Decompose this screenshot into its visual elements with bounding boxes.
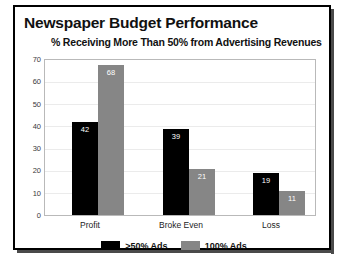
y-tick-20: 20 xyxy=(33,166,41,175)
bar-value-profit-100: 68 xyxy=(98,68,124,77)
chart-frame: Newspaper Budget Performance % Receiving… xyxy=(13,5,331,250)
bar-value-brokeeven-gt50: 39 xyxy=(163,132,189,141)
y-tick-0: 0 xyxy=(37,211,41,220)
bar-loss-100: 11 xyxy=(279,191,305,215)
bar-brokeeven-gt50: 39 xyxy=(163,129,189,215)
bar-value-loss-gt50: 19 xyxy=(253,176,279,185)
category-label-broke-even: Broke Even xyxy=(148,220,214,230)
category-label-loss: Loss xyxy=(238,220,304,230)
bar-loss-gt50: 19 xyxy=(253,173,279,215)
bar-value-profit-gt50: 42 xyxy=(72,125,98,134)
chart-title: Newspaper Budget Performance xyxy=(24,14,258,32)
y-tick-10: 10 xyxy=(33,188,41,197)
category-label-profit: Profit xyxy=(57,220,123,230)
y-axis-tick-labels: 70 60 50 40 30 20 10 0 xyxy=(25,59,41,215)
gridline-50 xyxy=(45,104,315,105)
y-tick-60: 60 xyxy=(33,77,41,86)
frame-shadow-bottom xyxy=(17,250,334,253)
bar-profit-100: 68 xyxy=(98,65,124,216)
bar-profit-gt50: 42 xyxy=(72,122,98,215)
bar-value-loss-100: 11 xyxy=(279,194,305,203)
y-tick-30: 30 xyxy=(33,144,41,153)
chart-subtitle: % Receiving More Than 50% from Advertisi… xyxy=(51,36,322,48)
y-tick-50: 50 xyxy=(33,99,41,108)
y-tick-40: 40 xyxy=(33,121,41,130)
plot-area: 42 68 39 21 19 11 xyxy=(44,59,316,216)
bar-brokeeven-100: 21 xyxy=(189,169,215,216)
y-tick-70: 70 xyxy=(33,55,41,64)
bar-value-brokeeven-100: 21 xyxy=(189,172,215,181)
frame-shadow-right xyxy=(331,9,334,254)
gridline-60 xyxy=(45,82,315,83)
